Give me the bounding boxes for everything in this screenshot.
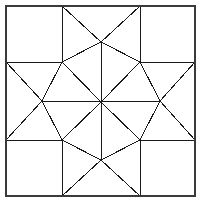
corner-square-bottom-left [6, 140, 62, 196]
quilt-block-figure [0, 0, 202, 204]
quilt-block-drawing [0, 0, 202, 204]
corner-square-top-right [140, 6, 195, 62]
corner-square-top-left [6, 6, 62, 62]
corner-square-bottom-right [140, 140, 195, 196]
